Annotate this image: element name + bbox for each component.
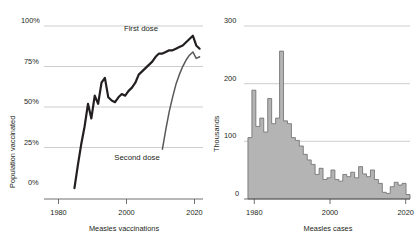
- ytick-label-0: 0%: [28, 178, 39, 187]
- cases-xticks: 1980 2000 2020: [246, 199, 414, 217]
- vaccinations-chart-svg: 100% 75% 50% 25% 0% Population vaccinate…: [0, 0, 210, 248]
- xtick-label-1980: 1980: [50, 208, 66, 217]
- cases-ytick-labels: 300 200 100 0: [224, 16, 239, 198]
- bars-outline: [248, 51, 410, 199]
- xtick-label-2000: 2000: [118, 208, 134, 217]
- chart-panel-cases: 300 200 100 0 Thousands 1980 2000 2020 M…: [210, 0, 420, 248]
- bars-measles-cases: [248, 51, 410, 199]
- xtick-label-2020: 2020: [186, 208, 202, 217]
- vaccinations-ytick-labels: 100% 75% 50% 25% 0%: [21, 16, 40, 187]
- yaxis-title-population-vaccinated: Population vaccinated: [8, 116, 17, 188]
- series-label-second-dose: Second dose: [114, 153, 160, 162]
- cases-chart-svg: 300 200 100 0 Thousands 1980 2000 2020 M…: [210, 0, 420, 248]
- xaxis-title-measles-cases: Measles cases: [304, 224, 353, 233]
- xtick-label-2000: 2000: [322, 208, 338, 217]
- ytick-label-300: 300: [224, 16, 236, 25]
- vaccinations-gridlines: [44, 26, 203, 148]
- yaxis-title-thousands: Thousands: [212, 115, 221, 152]
- measles-two-panel-figure: 100% 75% 50% 25% 0% Population vaccinate…: [0, 0, 420, 248]
- ytick-label-25: 25%: [24, 138, 39, 147]
- ytick-label-0: 0: [235, 189, 239, 198]
- xtick-label-1980: 1980: [246, 208, 262, 217]
- ytick-label-200: 200: [224, 74, 236, 83]
- chart-panel-vaccinations: 100% 75% 50% 25% 0% Population vaccinate…: [0, 0, 210, 248]
- ytick-label-75: 75%: [24, 57, 39, 66]
- line-first-dose: [74, 36, 199, 188]
- vaccinations-xticks: 1980 2000 2020: [50, 199, 202, 217]
- xaxis-title-measles-vaccinations: Measles vaccinations: [89, 224, 160, 233]
- ytick-label-100: 100%: [21, 16, 40, 25]
- ytick-label-50: 50%: [24, 97, 39, 106]
- series-label-first-dose: First dose: [124, 24, 158, 33]
- ytick-label-100: 100: [224, 131, 236, 140]
- xtick-label-2020: 2020: [397, 208, 413, 217]
